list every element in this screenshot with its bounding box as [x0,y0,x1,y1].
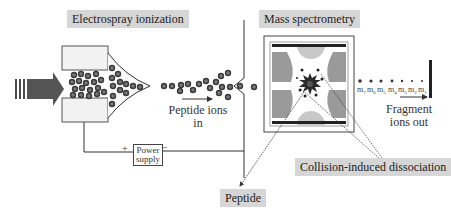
peptide-callout-label: Peptide [220,189,266,207]
esi-electrode-top [62,46,108,70]
fragment-ions-out-line2: ions out [384,116,434,129]
ms-inlet-plate [234,20,244,178]
cid-callout-label: Collision-induced dissociation [295,158,451,176]
sample-inflow-arrow [15,72,64,106]
power-minus-sign: − [162,142,168,153]
fragment-ions-out-caption: Fragment ions out [384,103,434,129]
mass-label-m3: m3 [398,85,407,95]
power-plus-sign: + [122,143,128,154]
esi-electrode-bottom [62,98,108,122]
fragment-mass-labels: m7 m6 m5 m4 m3 m2 m1 [357,85,427,95]
peptide-ion-stream [161,70,233,100]
mass-label-m4: m4 [388,85,397,95]
mass-label-m6: m6 [367,85,376,95]
power-supply-line2: supply [136,155,160,164]
detector [429,60,432,98]
mass-label-m1: m1 [418,85,427,95]
fragment-ion-stream [358,79,423,83]
mass-label-m5: m5 [377,85,386,95]
peptide-ions-in-caption: Peptide ions in [168,104,228,130]
esi-section-label: Electrospray ionization [67,10,189,28]
peptide-ions-in-line2: in [168,117,228,130]
mass-label-m7: m7 [357,85,366,95]
power-supply: Power supply [133,144,163,166]
mass-label-m2: m2 [408,85,417,95]
ms-section-label: Mass spectrometry [259,10,360,28]
